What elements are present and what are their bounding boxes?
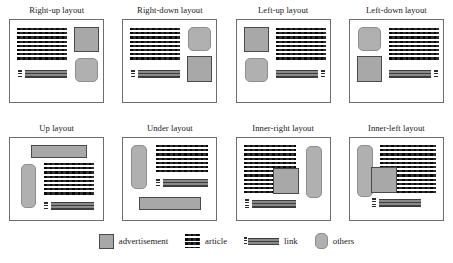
- panel-title: Right-down layout: [137, 5, 203, 15]
- legend-label: others: [333, 236, 355, 246]
- legend-label: advertisement: [119, 236, 168, 246]
- layout-panel-up: Up layout: [0, 118, 113, 236]
- advertisement-block: [187, 56, 212, 82]
- legend-item-article: article: [185, 234, 227, 248]
- panel-title: Right-up layout: [29, 5, 84, 15]
- advertisement-block: [273, 168, 299, 194]
- advertisement-swatch-icon: [99, 234, 114, 249]
- panel-canvas: [126, 141, 215, 219]
- panel-frame: [122, 19, 217, 103]
- article-block: [156, 145, 208, 174]
- article-block: [130, 28, 180, 61]
- link-marker: [321, 70, 325, 78]
- advertisement-block: [357, 56, 382, 82]
- link-marker: [131, 70, 135, 78]
- others-block: [245, 58, 268, 82]
- layout-panel-under: Under layout: [113, 118, 226, 236]
- advertisement-block: [244, 27, 269, 52]
- link-marker: [244, 237, 247, 245]
- layout-panel-right-down: Right-down layout: [113, 0, 226, 118]
- others-block: [131, 145, 147, 189]
- figure-legend: advertisementarticlelinkothers: [0, 228, 453, 254]
- panel-canvas: [240, 141, 329, 219]
- panel-title: Under layout: [147, 123, 193, 133]
- link-marker: [44, 202, 48, 210]
- panel-frame: [349, 19, 444, 103]
- panel-canvas: [353, 23, 442, 101]
- others-block: [358, 27, 381, 51]
- link-bar: [248, 238, 279, 245]
- article-swatch-icon: [185, 234, 200, 248]
- layout-panel-left-up: Left-up layout: [227, 0, 340, 118]
- panel-canvas: [240, 23, 329, 101]
- link-swatch-icon: [244, 237, 279, 245]
- others-swatch-icon: [315, 233, 328, 249]
- legend-label: link: [284, 236, 298, 246]
- layout-panel-grid: Right-up layoutRight-down layoutLeft-up …: [0, 0, 453, 236]
- panel-title: Inner-right layout: [252, 123, 314, 133]
- link-bar: [389, 70, 431, 78]
- legend-item-ad: advertisement: [99, 234, 168, 249]
- panel-frame: [236, 137, 331, 221]
- panel-canvas: [353, 141, 442, 219]
- link-marker: [18, 70, 22, 78]
- panel-canvas: [13, 23, 102, 101]
- article-block: [17, 28, 67, 61]
- panel-frame: [236, 19, 331, 103]
- panel-title: Left-down layout: [366, 5, 427, 15]
- link-bar: [252, 200, 296, 208]
- panel-frame: [9, 19, 104, 103]
- link-marker: [245, 199, 249, 208]
- others-block: [21, 164, 36, 208]
- panel-title: Up layout: [39, 123, 74, 133]
- link-bar: [138, 70, 180, 78]
- layout-panel-inner-right: Inner-right layout: [227, 118, 340, 236]
- link-marker: [434, 70, 438, 78]
- link-marker: [156, 179, 160, 187]
- layout-panel-inner-left: Inner-left layout: [340, 118, 453, 236]
- layout-panel-left-down: Left-down layout: [340, 0, 453, 118]
- legend-item-link: link: [244, 236, 298, 246]
- panel-canvas: [13, 141, 102, 219]
- article-block: [389, 28, 439, 61]
- advertisement-block: [74, 27, 99, 52]
- link-bar: [25, 70, 67, 78]
- link-bar: [163, 179, 208, 187]
- panel-canvas: [126, 23, 215, 101]
- link-bar: [276, 70, 318, 78]
- legend-label: article: [205, 236, 227, 246]
- panel-frame: [349, 137, 444, 221]
- advertisement-block: [139, 197, 201, 210]
- link-bar: [51, 202, 94, 210]
- article-block: [276, 28, 326, 61]
- advertisement-block: [371, 167, 397, 193]
- panel-title: Left-up layout: [258, 5, 308, 15]
- layout-taxonomy-figure: Right-up layoutRight-down layoutLeft-up …: [0, 0, 453, 263]
- legend-item-others: others: [315, 233, 355, 249]
- panel-frame: [122, 137, 217, 221]
- panel-frame: [9, 137, 104, 221]
- link-marker: [372, 198, 376, 207]
- advertisement-block: [31, 145, 87, 158]
- others-block: [306, 146, 322, 198]
- article-block: [44, 163, 94, 196]
- layout-panel-right-up: Right-up layout: [0, 0, 113, 118]
- link-bar: [379, 199, 421, 207]
- others-block: [75, 58, 98, 82]
- others-block: [188, 27, 211, 51]
- panel-title: Inner-left layout: [368, 123, 425, 133]
